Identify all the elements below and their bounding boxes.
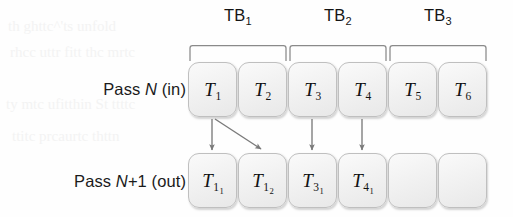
task-box-t12: T12: [238, 153, 287, 208]
task-box-t1: T1: [188, 62, 237, 117]
task-box-t6: T6: [438, 62, 487, 117]
task-box-t12-label: T12: [239, 169, 286, 191]
task-box-empty-6: [438, 153, 487, 208]
row-label-pass-n: Pass N (in): [103, 80, 186, 99]
task-box-t11: T11: [188, 153, 237, 208]
arrow-t1-to-t12: [215, 119, 261, 149]
row-label-pass-n-variable: N: [145, 80, 157, 98]
task-box-t31: T31: [288, 153, 337, 208]
task-box-t31-label: T31: [289, 169, 336, 191]
task-box-t2: T2: [238, 62, 287, 117]
task-box-t5: T5: [388, 62, 437, 117]
task-box-t3-label: T3: [289, 78, 336, 100]
task-box-t3: T3: [288, 62, 337, 117]
row-label-pass-n-plus-1-suffix: +1 (out): [128, 172, 186, 190]
thread-block-label-tb1-base: TB: [224, 6, 245, 24]
bleed-through-text: ttitc prcaurtc thttn: [12, 128, 119, 145]
thread-block-label-tb2-sub: 2: [346, 15, 352, 27]
task-box-t4-label: T4: [339, 78, 386, 100]
task-box-t6-label: T6: [439, 78, 486, 100]
thread-block-bracket-tb1: [190, 46, 286, 62]
task-box-t4: T4: [338, 62, 387, 117]
task-box-t5-label: T5: [389, 78, 436, 100]
thread-block-label-tb3-base: TB: [424, 6, 445, 24]
task-box-t1-label: T1: [189, 78, 236, 100]
task-box-t2-label: T2: [239, 78, 286, 100]
bleed-through-text: th ghttc^'ts unfold: [8, 18, 116, 35]
thread-block-label-tb3: TB3: [378, 6, 498, 25]
row-label-pass-n-prefix: Pass: [103, 80, 145, 98]
task-box-t41-label: T41: [339, 169, 386, 191]
thread-block-label-tb2-base: TB: [324, 6, 345, 24]
thread-block-label-tb1-sub: 1: [246, 15, 252, 27]
bleed-through-text: rhcc uttr fitt thc mrtc: [10, 44, 135, 61]
row-label-pass-n-plus-1-prefix: Pass: [74, 172, 116, 190]
task-box-t11-label: T11: [189, 169, 236, 191]
pass-pipeline-diagram: th ghttc^'ts unfold rhcc uttr fitt thc m…: [0, 0, 513, 217]
task-box-t41: T41: [338, 153, 387, 208]
row-label-pass-n-suffix: (in): [157, 80, 186, 98]
thread-block-bracket-tb3: [390, 46, 486, 62]
thread-block-bracket-tb2: [290, 46, 386, 62]
task-box-empty-5: [388, 153, 437, 208]
row-label-pass-n-plus-1: Pass N+1 (out): [74, 172, 186, 191]
row-label-pass-n-plus-1-variable: N: [116, 172, 128, 190]
thread-block-label-tb3-sub: 3: [446, 15, 452, 27]
